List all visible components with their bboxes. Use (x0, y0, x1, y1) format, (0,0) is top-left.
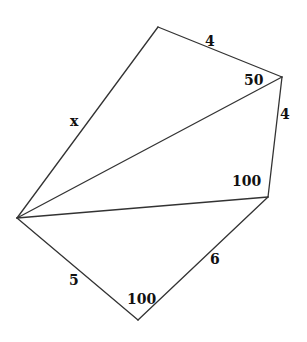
edge-apex-right (17, 197, 268, 218)
label-bottom-angle: 100 (127, 291, 156, 307)
geometry-diagram: 4 50 x 4 100 5 6 100 (0, 0, 307, 342)
edge-top-upper_right (158, 27, 282, 77)
label-upper-right-angle: 50 (244, 72, 264, 88)
label-lower-right-edge: 6 (210, 251, 220, 267)
edge-apex-upper_right (17, 77, 282, 218)
edge-right-bottom (138, 197, 268, 320)
labels: 4 50 x 4 100 5 6 100 (69, 33, 290, 307)
label-left-edge-x: x (70, 113, 79, 129)
label-right-angle: 100 (232, 173, 261, 189)
edge-upper_right-right (268, 77, 282, 197)
edge-apex-top (17, 27, 158, 218)
edge-apex-bottom (17, 218, 138, 320)
label-lower-left-edge: 5 (69, 272, 79, 288)
label-right-edge: 4 (280, 106, 290, 122)
label-top-edge: 4 (205, 33, 215, 49)
